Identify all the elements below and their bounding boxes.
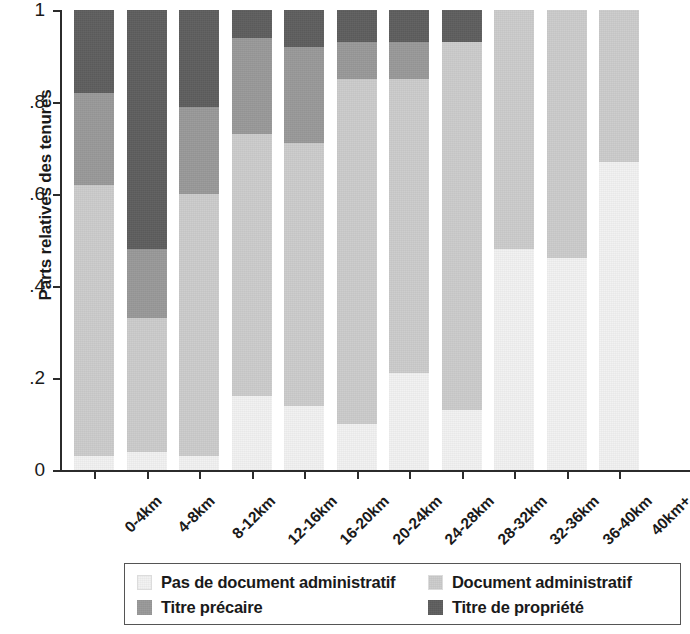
segment-texture — [74, 185, 114, 456]
bar-segment[interactable] — [74, 185, 114, 456]
bar-segment[interactable] — [547, 258, 587, 470]
segment-texture — [127, 10, 167, 249]
segment-texture — [127, 318, 167, 451]
segment-texture — [547, 258, 587, 470]
bar-8-12km[interactable] — [179, 10, 219, 470]
bar-segment[interactable] — [232, 396, 272, 470]
x-axis-tick-label: 20-24km — [389, 492, 446, 549]
bar-segment[interactable] — [127, 318, 167, 451]
y-axis-tick-label: .8 — [29, 91, 45, 113]
bar-segment[interactable] — [547, 10, 587, 258]
segment-texture — [442, 410, 482, 470]
legend-label: Titre de propriété — [452, 598, 584, 617]
bar-segment[interactable] — [179, 456, 219, 470]
bar-segment[interactable] — [337, 79, 377, 424]
legend-label: Titre précaire — [161, 598, 262, 617]
bar-36-40km[interactable] — [547, 10, 587, 470]
y-axis-tick: .2 — [53, 378, 60, 380]
x-axis-tick — [357, 471, 359, 479]
legend-swatch-icon — [137, 575, 152, 590]
legend-swatch-icon — [137, 600, 152, 615]
bar-segment[interactable] — [442, 10, 482, 42]
plot-area: 0.2.4.6.81 0-4km4-8km8-12km12-16km16-20k… — [60, 10, 690, 470]
bar-segment[interactable] — [284, 10, 324, 47]
segment-texture — [389, 79, 429, 373]
bar-segment[interactable] — [389, 10, 429, 42]
bar-20-24km[interactable] — [337, 10, 377, 470]
bar-4-8km[interactable] — [127, 10, 167, 470]
segment-texture — [179, 456, 219, 470]
bar-segment[interactable] — [284, 406, 324, 470]
y-axis-tick-label: 0 — [34, 459, 45, 481]
x-axis-tick — [147, 471, 149, 479]
segment-texture — [337, 424, 377, 470]
bar-0-4km[interactable] — [74, 10, 114, 470]
legend-row-1: Pas de document administratif Document a… — [137, 570, 670, 595]
segment-texture — [337, 10, 377, 42]
bar-segment[interactable] — [389, 373, 429, 470]
bar-segment[interactable] — [179, 194, 219, 456]
bar-segment[interactable] — [337, 424, 377, 470]
bar-segment[interactable] — [389, 79, 429, 373]
y-axis-tick-label: .4 — [29, 275, 45, 297]
x-axis-tick — [199, 471, 201, 479]
segment-texture — [127, 249, 167, 318]
y-axis-tick-label: .6 — [29, 183, 45, 205]
bar-segment[interactable] — [74, 93, 114, 185]
y-axis-tick: .4 — [53, 286, 60, 288]
segment-texture — [284, 406, 324, 470]
bar-segment[interactable] — [599, 10, 639, 162]
legend-label: Pas de document administratif — [161, 573, 395, 592]
chart-legend: Pas de document administratif Document a… — [124, 563, 681, 625]
bar-segment[interactable] — [232, 38, 272, 135]
bar-segment[interactable] — [494, 249, 534, 470]
segment-texture — [179, 10, 219, 107]
segment-texture — [179, 107, 219, 194]
bar-segment[interactable] — [232, 134, 272, 396]
bar-segment[interactable] — [179, 10, 219, 107]
bar-segment[interactable] — [284, 143, 324, 405]
segment-texture — [284, 10, 324, 47]
bar-segment[interactable] — [127, 452, 167, 470]
bar-32-36km[interactable] — [494, 10, 534, 470]
segment-texture — [74, 456, 114, 470]
x-axis-tick-label: 4-8km — [174, 492, 218, 536]
bar-40km+[interactable] — [599, 10, 639, 470]
segment-texture — [232, 38, 272, 135]
segment-texture — [127, 452, 167, 470]
bar-segment[interactable] — [74, 456, 114, 470]
bar-segment[interactable] — [179, 107, 219, 194]
bar-segment[interactable] — [337, 10, 377, 42]
bar-segment[interactable] — [442, 42, 482, 410]
bar-segment[interactable] — [337, 42, 377, 79]
x-axis-tick-label: 8-12km — [229, 492, 280, 543]
x-axis-tick — [514, 471, 516, 479]
x-axis-tick — [567, 471, 569, 479]
segment-texture — [232, 134, 272, 396]
x-axis-tick — [462, 471, 464, 479]
y-axis-tick: .6 — [53, 194, 60, 196]
x-axis-tick — [409, 471, 411, 479]
legend-item-titre-de-propriete: Titre de propriété — [428, 595, 670, 620]
x-axis-tick-label: 24-28km — [441, 492, 498, 549]
bar-12-16km[interactable] — [232, 10, 272, 470]
legend-swatch-icon — [428, 600, 443, 615]
bar-segment[interactable] — [127, 10, 167, 249]
bar-segment[interactable] — [442, 410, 482, 470]
bar-28-32km[interactable] — [442, 10, 482, 470]
bar-segment[interactable] — [389, 42, 429, 79]
legend-item-titre-precaire: Titre précaire — [137, 595, 428, 620]
bar-16-20km[interactable] — [284, 10, 324, 470]
bar-segment[interactable] — [494, 10, 534, 249]
bar-segment[interactable] — [232, 10, 272, 38]
bar-segment[interactable] — [74, 10, 114, 93]
bar-segment[interactable] — [127, 249, 167, 318]
segment-texture — [337, 42, 377, 79]
bar-24-28km[interactable] — [389, 10, 429, 470]
legend-item-pas-de-document-administratif: Pas de document administratif — [137, 570, 428, 595]
bar-segment[interactable] — [284, 47, 324, 144]
x-axis-tick-label: 40km+ — [647, 492, 690, 539]
bar-segment[interactable] — [599, 162, 639, 470]
segment-texture — [599, 162, 639, 470]
segment-texture — [494, 10, 534, 249]
